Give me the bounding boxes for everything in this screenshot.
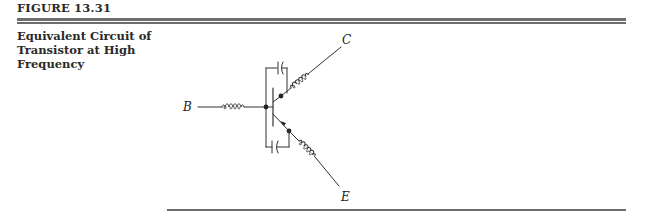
emitter-inductor-icon (297, 139, 316, 158)
emitter-wire (289, 131, 299, 141)
circuit-diagram: B C E (0, 0, 660, 216)
collector-wire-to-terminal (308, 47, 341, 74)
footer-rule (167, 209, 626, 211)
collector-inductor-icon (289, 72, 310, 90)
base-node-dot (264, 105, 269, 110)
collector-wire (281, 88, 291, 96)
emitter-lead (273, 114, 289, 131)
terminal-label-base: B (182, 100, 192, 114)
base-inductor-icon (222, 104, 244, 109)
terminal-label-collector: C (342, 33, 351, 47)
emitter-wire-to-terminal (315, 157, 339, 186)
terminal-label-emitter: E (340, 190, 350, 204)
